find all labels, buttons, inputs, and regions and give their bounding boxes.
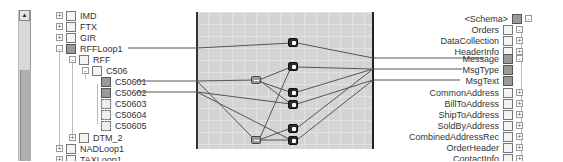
- expand-icon[interactable]: +: [516, 111, 523, 118]
- segment-icon: [79, 55, 89, 65]
- node-label: Message: [462, 54, 499, 64]
- record-icon: [503, 99, 513, 109]
- expand-icon[interactable]: +: [56, 23, 63, 30]
- scroll-up-button[interactable]: ▲: [19, 10, 30, 21]
- segment-icon: [92, 66, 102, 76]
- source-node-c506[interactable]: - C506: [82, 65, 128, 76]
- target-node-datacollection[interactable]: DataCollection +: [440, 35, 526, 46]
- node-label: MsgText: [465, 76, 499, 86]
- node-label: CombinedAddressRec: [409, 132, 499, 142]
- expand-icon[interactable]: +: [56, 12, 63, 19]
- mapping-grid[interactable]: [196, 12, 372, 149]
- segment-icon: [66, 155, 76, 162]
- source-node-dtm2[interactable]: + DTM_2: [69, 132, 123, 143]
- value-mapping-functoid-4[interactable]: [288, 136, 298, 145]
- expand-icon[interactable]: +: [69, 134, 76, 141]
- expand-icon[interactable]: +: [56, 156, 63, 161]
- source-node-taxloop1[interactable]: + TAXLoop1: [56, 154, 122, 161]
- node-label: <Schema>: [464, 14, 508, 24]
- target-node-commonaddress[interactable]: CommonAddress +: [429, 87, 526, 98]
- target-node-combinedaddressrec[interactable]: CombinedAddressRec +: [409, 131, 526, 142]
- looping-functoid[interactable]: [288, 38, 298, 47]
- linked-field-icon: [101, 88, 111, 98]
- target-node-orders[interactable]: Orders -: [471, 24, 526, 35]
- equal-functoid-2[interactable]: [251, 136, 261, 144]
- target-node-contactinfo[interactable]: ContactInfo +: [453, 153, 526, 161]
- expand-icon[interactable]: +: [516, 144, 523, 151]
- target-node-msgtext[interactable]: MsgText: [465, 75, 516, 86]
- grid-left-border: [196, 12, 198, 149]
- tree-guide-line: [59, 52, 60, 147]
- record-icon: [503, 132, 513, 142]
- expand-icon[interactable]: +: [56, 34, 63, 41]
- collapse-icon[interactable]: -: [82, 67, 89, 74]
- record-icon: [503, 88, 513, 98]
- collapse-icon[interactable]: -: [516, 26, 523, 33]
- segment-icon: [66, 11, 76, 21]
- target-node-orderheader[interactable]: OrderHeader +: [446, 142, 526, 153]
- source-node-nadloop1[interactable]: + NADLoop1: [56, 143, 124, 154]
- segment-icon: [79, 133, 89, 143]
- source-node-rffloop1[interactable]: - RFFLoop1: [56, 43, 123, 54]
- collapse-icon[interactable]: -: [69, 56, 76, 63]
- node-label: SoldByAddress: [437, 121, 499, 131]
- value-mapping-functoid[interactable]: [288, 62, 298, 71]
- linked-field-icon: [503, 76, 513, 86]
- node-label: ContactInfo: [453, 154, 499, 162]
- expand-icon[interactable]: +: [516, 122, 523, 129]
- source-node-c50602[interactable]: C50602: [101, 87, 147, 98]
- node-label: RFFLoop1: [80, 44, 123, 54]
- equal-functoid-1[interactable]: [251, 76, 261, 84]
- segment-icon: [66, 22, 76, 32]
- source-node-gir[interactable]: + GIR: [56, 32, 96, 43]
- source-node-c50605[interactable]: C50605: [101, 120, 147, 131]
- target-node-shiptoaddress[interactable]: ShipToAddress +: [438, 109, 526, 120]
- source-node-ftx[interactable]: + FTX: [56, 21, 97, 32]
- record-icon: [503, 36, 513, 46]
- record-icon: [503, 154, 513, 162]
- tree-guide-line: [97, 84, 98, 124]
- node-label: ShipToAddress: [438, 110, 499, 120]
- node-label: DataCollection: [440, 36, 499, 46]
- target-node-schema[interactable]: <Schema> -: [464, 13, 535, 24]
- target-node-msgtype[interactable]: MsgType: [462, 64, 516, 75]
- source-node-rff[interactable]: - RFF: [69, 54, 111, 65]
- expand-icon[interactable]: +: [516, 155, 523, 161]
- source-tree-scrollbar[interactable]: ▲: [18, 10, 31, 161]
- value-mapping-functoid-1[interactable]: [288, 88, 298, 97]
- record-icon: [503, 143, 513, 153]
- expand-icon[interactable]: +: [516, 133, 523, 140]
- value-mapping-functoid-2[interactable]: [288, 100, 298, 109]
- value-mapping-functoid-3[interactable]: [288, 124, 298, 133]
- target-node-message[interactable]: Message -: [462, 53, 526, 64]
- field-icon: [101, 121, 111, 131]
- collapse-icon[interactable]: -: [516, 55, 523, 62]
- loop-icon: [66, 44, 76, 54]
- expand-icon[interactable]: +: [516, 89, 523, 96]
- collapse-icon[interactable]: -: [56, 45, 63, 52]
- expand-icon[interactable]: +: [516, 37, 523, 44]
- node-label: C50602: [115, 88, 147, 98]
- arrow-up-icon: ▲: [22, 12, 28, 18]
- node-label: C50604: [115, 110, 147, 120]
- source-node-c50604[interactable]: C50604: [101, 109, 147, 120]
- node-label: IMD: [80, 11, 97, 21]
- node-label: CommonAddress: [429, 88, 499, 98]
- expand-icon[interactable]: +: [56, 145, 63, 152]
- node-label: C50603: [115, 99, 147, 109]
- record-icon: [503, 110, 513, 120]
- segment-icon: [66, 33, 76, 43]
- collapse-icon[interactable]: -: [525, 15, 532, 22]
- target-node-soldbyaddress[interactable]: SoldByAddress +: [437, 120, 526, 131]
- source-node-c50601[interactable]: C50601: [101, 76, 147, 87]
- record-icon: [503, 25, 513, 35]
- node-label: C50605: [115, 121, 147, 131]
- node-label: GIR: [80, 33, 96, 43]
- source-node-c50603[interactable]: C50603: [101, 98, 147, 109]
- target-node-billtoaddress[interactable]: BillToAddress +: [444, 98, 526, 109]
- expand-icon[interactable]: +: [516, 100, 523, 107]
- source-node-imd[interactable]: + IMD: [56, 10, 97, 21]
- node-label: C50601: [115, 77, 147, 87]
- grid-right-border: [372, 12, 374, 149]
- scroll-thumb[interactable]: [20, 70, 31, 161]
